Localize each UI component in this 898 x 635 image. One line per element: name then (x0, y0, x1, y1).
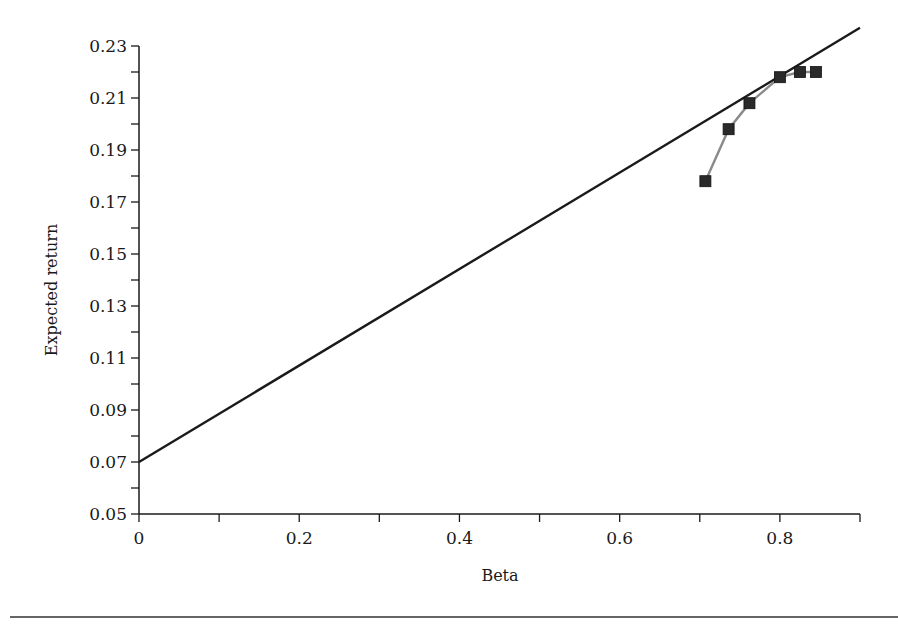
x-tick-label: 0.8 (766, 528, 793, 548)
plot-area (139, 28, 860, 462)
chart: 0.050.070.090.110.130.150.170.190.210.23… (0, 0, 898, 635)
y-tick-label: 0.13 (89, 296, 127, 316)
x-tick-label: 0.2 (286, 528, 313, 548)
y-tick-label: 0.17 (89, 192, 127, 212)
y-tick-label: 0.19 (89, 140, 127, 160)
y-tick-label: 0.11 (89, 348, 127, 368)
square-marker-icon (700, 176, 711, 187)
y-axis-title: Expected return (42, 224, 61, 356)
x-axis-title: Beta (481, 566, 519, 585)
y-tick-label: 0.05 (89, 504, 127, 524)
y-tick-label: 0.15 (89, 244, 127, 264)
y-tick-label: 0.21 (89, 88, 127, 108)
square-marker-icon (774, 72, 785, 83)
square-marker-icon (723, 124, 734, 135)
square-marker-icon (810, 67, 821, 78)
y-tick-label: 0.07 (89, 452, 127, 472)
y-tick-label: 0.09 (89, 400, 127, 420)
security-market-line (139, 28, 860, 462)
x-tick-label: 0.4 (446, 528, 473, 548)
x-tick-label: 0.6 (606, 528, 633, 548)
y-axis: 0.050.070.090.110.130.150.170.190.210.23 (89, 36, 139, 524)
square-marker-icon (744, 98, 755, 109)
square-marker-icon (794, 67, 805, 78)
x-tick-label: 0 (134, 528, 145, 548)
x-axis: 00.20.40.60.8 (134, 514, 860, 548)
y-tick-label: 0.23 (89, 36, 127, 56)
